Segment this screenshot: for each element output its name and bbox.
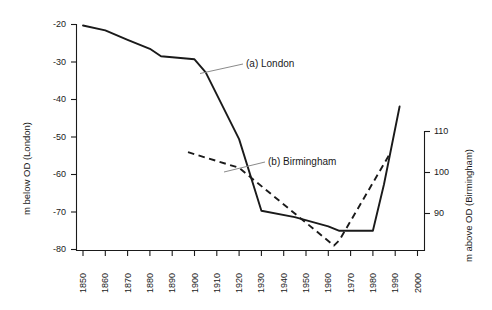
xtick-1940: 1940 (280, 273, 289, 293)
leader-line-birmingham (224, 162, 265, 172)
leader-line-london (200, 64, 243, 74)
xtick-1890: 1890 (168, 273, 177, 293)
ytick-left-3: -50 (40, 133, 66, 142)
ytick-left-1: -30 (40, 58, 66, 67)
xtick-1920: 1920 (235, 273, 244, 293)
ytick-left-4: -60 (40, 170, 66, 179)
right-axis-title: m above OD (Birmingham) (464, 149, 474, 262)
x-axis-ticks (83, 251, 418, 257)
xtick-1980: 1980 (369, 273, 378, 293)
xtick-1970: 1970 (347, 273, 356, 293)
xtick-1850: 1850 (79, 273, 88, 293)
xtick-1870: 1870 (124, 273, 133, 293)
ytick-left-0: -20 (40, 20, 66, 29)
xtick-1860: 1860 (101, 273, 110, 293)
series-label-london: (a) London (246, 59, 294, 69)
xtick-1900: 1900 (191, 273, 200, 293)
xtick-1930: 1930 (257, 273, 266, 293)
xtick-2000: 2000 (414, 273, 423, 293)
xtick-1950: 1950 (302, 273, 311, 293)
chart-figure: -20 -30 -40 -50 -60 -70 -80 110 100 90 1… (0, 0, 492, 310)
left-axis-ticks (71, 25, 77, 250)
xtick-1990: 1990 (391, 273, 400, 293)
xtick-1960: 1960 (324, 273, 333, 293)
series-label-birmingham: (b) Birmingham (268, 157, 336, 167)
right-axis-ticks (425, 132, 431, 214)
xtick-1880: 1880 (146, 273, 155, 293)
ytick-left-2: -40 (40, 95, 66, 104)
ytick-right-1: 100 (434, 168, 449, 177)
ytick-left-6: -80 (40, 245, 66, 254)
chart-plot-area (0, 0, 492, 310)
left-axis-title: m below OD (London) (22, 122, 32, 215)
ytick-right-0: 110 (434, 127, 448, 136)
ytick-left-5: -70 (40, 208, 66, 217)
ytick-right-2: 90 (434, 209, 444, 218)
series-line-london (83, 26, 400, 231)
xtick-1910: 1910 (213, 273, 222, 293)
